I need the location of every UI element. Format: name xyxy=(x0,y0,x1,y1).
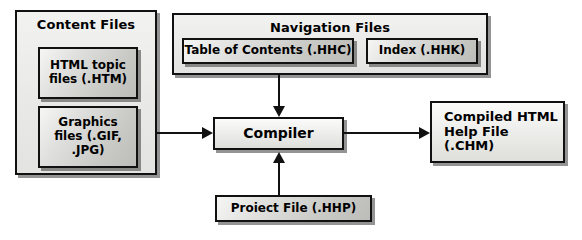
connector-compiler-to-output xyxy=(344,132,420,134)
node-html-topic-files: HTML topicfiles (.HTM) xyxy=(38,47,138,99)
node-graphics-files: Graphicsfiles (.GIF,.JPG) xyxy=(38,106,138,168)
arrowhead-compiler-to-output-icon xyxy=(419,127,430,139)
arrowhead-project-to-compiler-icon xyxy=(273,152,285,163)
arrowhead-navigation-to-compiler-icon xyxy=(273,106,285,117)
connector-content-to-compiler xyxy=(157,132,204,134)
node-compiled-help-file: Compiled HTMLHelp File (.CHM) xyxy=(430,101,565,163)
connector-project-to-compiler xyxy=(278,163,280,196)
node-table-of-contents-label: Table of Contents (.HHC) xyxy=(185,44,352,58)
arrowhead-content-to-compiler-icon xyxy=(202,127,213,139)
connector-navigation-to-compiler xyxy=(278,75,280,108)
html-help-workflow-diagram: Content Files HTML topicfiles (.HTM) Gra… xyxy=(0,0,582,240)
node-html-topic-files-label: HTML topicfiles (.HTM) xyxy=(49,59,127,87)
node-index-file-label: Index (.HHK) xyxy=(379,44,466,58)
node-compiler-label: Compiler xyxy=(243,125,314,141)
node-project-file-label: Proiect File (.HHP) xyxy=(231,202,356,216)
node-table-of-contents: Table of Contents (.HHC) xyxy=(182,38,354,64)
node-graphics-files-label: Graphicsfiles (.GIF,.JPG) xyxy=(54,116,122,157)
group-content-files-title: Content Files xyxy=(37,18,135,33)
node-index-file: Index (.HHK) xyxy=(366,38,478,64)
node-compiler: Compiler xyxy=(213,117,344,150)
node-compiled-help-file-label: Compiled HTMLHelp File (.CHM) xyxy=(444,110,563,155)
node-project-file: Proiect File (.HHP) xyxy=(215,195,372,222)
group-navigation-files-title: Navigation Files xyxy=(270,21,390,36)
